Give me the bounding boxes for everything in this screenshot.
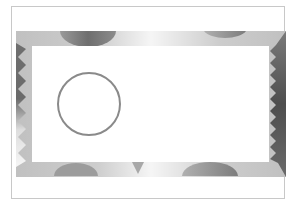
bottom-notch-triangle [132, 162, 144, 174]
bottom-disc-left [54, 163, 98, 176]
right-zigzag-edge [266, 31, 286, 177]
top-disc-right [204, 31, 246, 38]
bottom-disc-right [182, 162, 238, 176]
top-discs [16, 31, 286, 47]
circle-outline [57, 72, 121, 136]
bottom-discs [16, 162, 286, 178]
top-disc-left [60, 31, 116, 47]
